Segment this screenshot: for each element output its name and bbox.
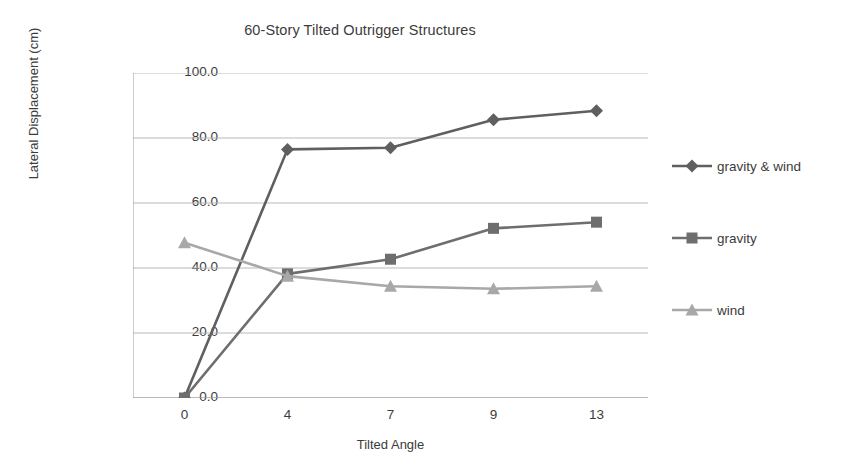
legend-item[interactable]: wind (672, 274, 862, 346)
data-point-marker-diamond (590, 104, 603, 117)
x-axis-tick-label: 0 (155, 407, 215, 422)
series-gravity-wind (178, 104, 603, 398)
axes (133, 73, 648, 398)
legend-item-label: gravity & wind (717, 159, 801, 174)
legend-item-label: gravity (717, 231, 757, 246)
gridlines (133, 73, 648, 398)
legend-marker-diamond-icon (672, 158, 712, 174)
data-point-marker-diamond (384, 141, 397, 154)
plot-svg (133, 73, 648, 398)
x-axis-tick-label: 4 (258, 407, 318, 422)
data-point-marker-square (591, 217, 602, 228)
x-axis-tick-label: 7 (361, 407, 421, 422)
data-point-marker-square (179, 393, 190, 399)
data-point-marker-square (385, 254, 396, 265)
series-gravity (179, 217, 602, 398)
legend-marker-triangle-icon (672, 302, 712, 318)
series-wind (178, 236, 603, 294)
data-point-marker-diamond (281, 143, 294, 156)
data-point-marker-square (687, 233, 698, 244)
data-point-marker-diamond (686, 160, 699, 173)
legend-marker-square-icon (672, 230, 712, 246)
legend-item-label: wind (717, 303, 745, 318)
x-axis-tick-label: 9 (464, 407, 524, 422)
x-axis-tick-label: 13 (567, 407, 627, 422)
chart-legend: gravity & windgravitywind (672, 130, 862, 346)
legend-item[interactable]: gravity (672, 202, 862, 274)
x-axis-title: Tilted Angle (133, 437, 648, 452)
chart-title: 60-Story Tilted Outrigger Structures (0, 22, 720, 38)
chart-container: 60-Story Tilted Outrigger Structures Lat… (0, 0, 868, 476)
data-point-marker-square (488, 223, 499, 234)
data-point-marker-triangle (178, 236, 191, 248)
plot-area (133, 73, 648, 398)
data-point-marker-diamond (487, 113, 500, 126)
y-axis-title: Lateral Displacement (cm) (26, 9, 41, 199)
legend-item[interactable]: gravity & wind (672, 130, 862, 202)
